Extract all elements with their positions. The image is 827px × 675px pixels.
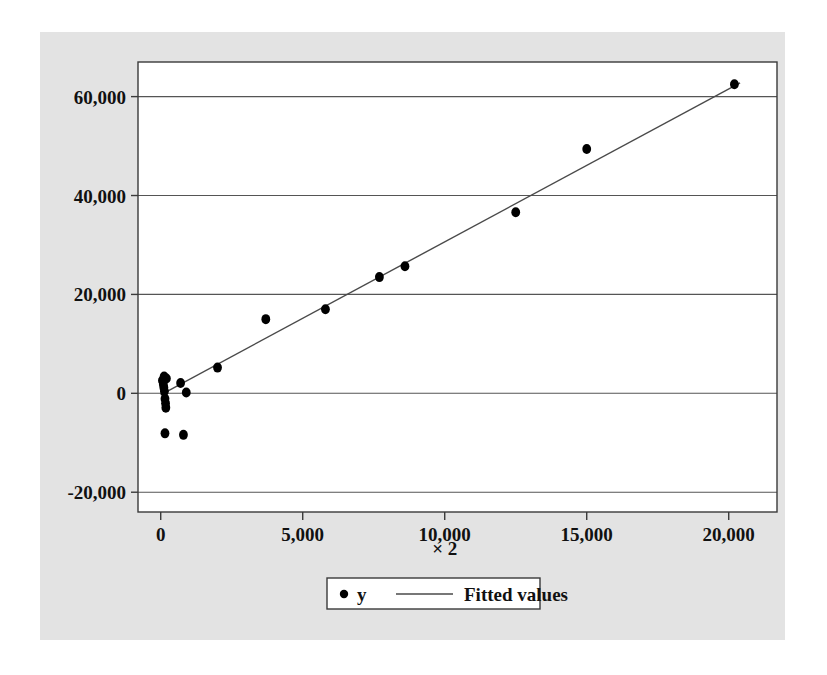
y-axis-tick-label: 0 [117, 383, 127, 404]
data-point [182, 388, 191, 398]
y-axis-ticks-group [131, 97, 138, 493]
data-point [161, 403, 170, 413]
y-axis-tick-labels: -20,000020,00040,00060,000 [67, 87, 126, 504]
y-axis-tick-label: 60,000 [74, 87, 126, 108]
legend-item-label-y: y [357, 584, 367, 605]
legend-item-label-fitted-values: Fitted values [464, 584, 568, 605]
data-point [179, 430, 188, 440]
y-axis-tick-label: -20,000 [67, 482, 126, 503]
data-point [730, 79, 739, 89]
chart-container: -20,000020,00040,00060,000 05,00010,0001… [0, 0, 827, 675]
data-point [176, 378, 185, 388]
legend[interactable]: y Fitted values [327, 578, 568, 609]
data-point [160, 372, 169, 382]
data-point [375, 272, 384, 282]
y-axis-tick-label: 20,000 [74, 284, 126, 305]
data-point [401, 261, 410, 271]
plot-area-background [138, 62, 777, 512]
legend-marker-circle-icon [340, 590, 348, 598]
x-axis-tick-label: 0 [156, 524, 166, 545]
x-axis-tick-label: 15,000 [561, 524, 613, 545]
x-axis-tick-label: 20,000 [703, 524, 755, 545]
scatter-plot-svg: -20,000020,00040,00060,000 05,00010,0001… [0, 0, 827, 675]
data-point [161, 428, 170, 438]
data-point [261, 314, 270, 324]
x-axis-ticks-group [161, 512, 729, 520]
x-axis-tick-label: 5,000 [281, 524, 324, 545]
data-point [582, 144, 591, 154]
x-axis-title: × 2 [432, 538, 457, 559]
data-point [321, 304, 330, 314]
data-point [511, 207, 520, 217]
y-axis-tick-label: 40,000 [74, 186, 126, 207]
data-point [213, 363, 222, 373]
